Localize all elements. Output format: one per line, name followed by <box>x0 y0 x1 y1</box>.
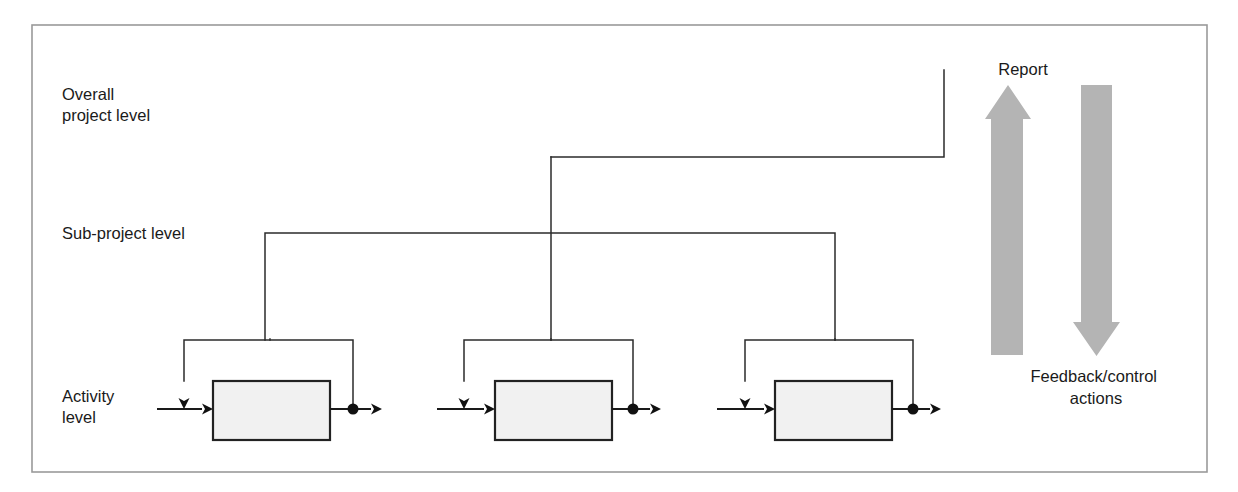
label-overall-project-level-line2: project level <box>62 106 150 124</box>
activity-box[interactable] <box>775 381 892 440</box>
project-control-hierarchy-diagram: Overall project level Sub-project level … <box>0 0 1238 492</box>
report-arrow-label: Report <box>998 60 1048 78</box>
feedback-control-arrow-label-line2: actions <box>1070 389 1122 407</box>
label-sub-project-level-line1: Sub-project level <box>62 224 185 242</box>
report-arrow-label-text: Report <box>998 60 1048 78</box>
diagram-canvas: Overall project level Sub-project level … <box>0 0 1238 492</box>
activity-output-junction-dot <box>628 404 639 415</box>
activity-output-junction-dot <box>348 404 359 415</box>
feedback-control-arrow-label-line1: Feedback/control <box>1030 367 1157 385</box>
diagram-frame <box>32 25 1207 472</box>
label-activity-level-line2: level <box>62 408 96 426</box>
activity-box[interactable] <box>213 381 330 440</box>
activity-box[interactable] <box>495 381 612 440</box>
label-activity-level-line1: Activity <box>62 387 115 405</box>
label-overall-project-level-line1: Overall <box>62 85 114 103</box>
label-sub-project-level: Sub-project level <box>62 224 185 242</box>
activity-output-junction-dot <box>908 404 919 415</box>
